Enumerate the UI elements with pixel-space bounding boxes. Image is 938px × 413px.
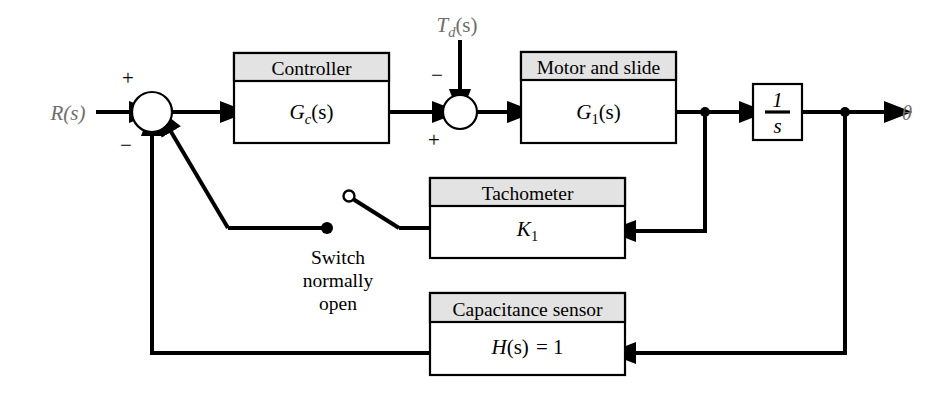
switch-terminal-dot	[321, 222, 333, 234]
switch-open-terminal-icon[interactable]	[344, 191, 355, 202]
block-tachometer: Tachometer K1	[430, 178, 625, 258]
controller-header-label: Controller	[271, 58, 352, 79]
integrator-numerator-label: 1	[772, 88, 783, 112]
switch-note-line-3: open	[319, 293, 357, 314]
integrator-denominator-label: s	[773, 114, 781, 138]
capacitance-sensor-header-label: Capacitance sensor	[453, 299, 603, 320]
output-signal-label: θ	[902, 101, 912, 125]
wire-switch-blade	[353, 199, 399, 228]
takeoff-dot-motor-output	[700, 107, 710, 117]
tachometer-header-label: Tachometer	[482, 183, 574, 204]
error-junction	[132, 92, 172, 132]
disturbance-junction-minus-sign: −	[431, 63, 443, 87]
disturbance-signal-label: Td(s)	[436, 13, 477, 40]
block-diagram-canvas: Controller Gc(s) Motor and slide G1(s) 1…	[0, 0, 938, 413]
motor-and-slide-body-label: G1(s)	[576, 100, 621, 127]
disturbance-junction	[443, 95, 477, 129]
controller-body-label: Gc(s)	[290, 100, 334, 127]
takeoff-dot-theta-output	[840, 107, 850, 117]
block-integrator: 1 s	[753, 84, 802, 140]
switch-note-line-1: Switch	[311, 247, 365, 268]
block-motor-and-slide: Motor and slide G1(s)	[521, 52, 676, 143]
control-system-diagram: Controller Gc(s) Motor and slide G1(s) 1…	[0, 0, 938, 413]
input-signal-label: R(s)	[50, 101, 86, 125]
capacitance-sensor-body-label: H(s)= 1	[491, 335, 564, 359]
wire-tachometer-branch-to-error-junction	[170, 130, 228, 228]
switch-note-line-2: normally	[303, 270, 374, 291]
block-capacitance-sensor: Capacitance sensor H(s)= 1	[430, 293, 625, 375]
disturbance-junction-plus-sign: +	[428, 128, 440, 152]
motor-and-slide-header-label: Motor and slide	[537, 57, 660, 78]
block-controller: Controller Gc(s)	[234, 53, 389, 143]
error-junction-minus-sign: −	[120, 133, 132, 157]
error-junction-plus-sign: +	[122, 66, 134, 90]
